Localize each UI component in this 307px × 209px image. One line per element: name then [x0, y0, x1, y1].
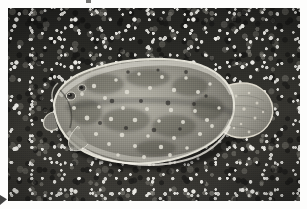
dark-speck-icon [86, 0, 91, 3]
fish-eye-second [78, 85, 86, 92]
photograph [8, 8, 300, 201]
screenshot-root: flatfish-on-gravel-seabed [0, 0, 307, 209]
flatfish-subject [8, 8, 300, 201]
fish-eye [66, 92, 75, 100]
corner-mark-icon [0, 194, 7, 205]
